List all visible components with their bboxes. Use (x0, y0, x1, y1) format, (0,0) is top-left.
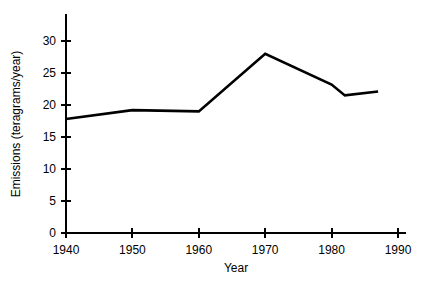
y-axis-title: Emissions (teragrams/year) (9, 51, 23, 198)
x-tick-label: 1940 (53, 243, 80, 257)
y-tick-label: 15 (43, 130, 57, 144)
x-tick-label: 1990 (385, 243, 412, 257)
y-tick-label: 0 (49, 226, 56, 240)
x-tick-label: 1950 (119, 243, 146, 257)
x-axis-title: Year (224, 261, 248, 275)
chart-figure: 051015202530 194019501960197019801990 Ye… (0, 0, 425, 285)
emissions-line-chart: 051015202530 194019501960197019801990 Ye… (0, 0, 425, 285)
y-tick-label: 30 (43, 34, 57, 48)
x-tick-label: 1960 (185, 243, 212, 257)
y-tick-label: 10 (43, 162, 57, 176)
y-tick-label: 20 (43, 98, 57, 112)
y-tick-label: 25 (43, 66, 57, 80)
x-tick-label: 1970 (252, 243, 279, 257)
x-tick-label: 1980 (318, 243, 345, 257)
y-tick-label: 5 (49, 194, 56, 208)
